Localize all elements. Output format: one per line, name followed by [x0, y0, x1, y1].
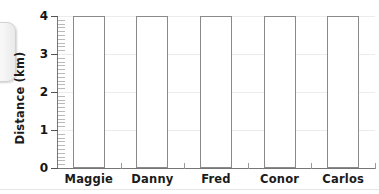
y-tick-minor: [58, 31, 65, 32]
x-tick: [248, 163, 249, 169]
y-tick-minor: [58, 81, 65, 82]
x-tick: [184, 163, 185, 169]
y-tick-major: [51, 168, 58, 169]
x-axis-line: [57, 168, 375, 169]
x-axis-category-label: Danny: [121, 172, 185, 186]
y-tick-minor: [58, 141, 65, 142]
y-tick-minor: [58, 145, 65, 146]
y-tick-minor: [58, 122, 65, 123]
x-axis-category-label: Fred: [184, 172, 248, 186]
y-tick-minor: [58, 62, 65, 63]
y-tick-minor: [58, 164, 65, 165]
bar: [264, 16, 296, 168]
y-tick-minor: [58, 88, 65, 89]
bar: [136, 16, 168, 168]
y-tick-minor: [58, 126, 65, 127]
y-tick-minor: [58, 149, 65, 150]
y-tick-minor: [58, 24, 65, 25]
y-axis-tick-label: 4: [33, 10, 48, 22]
x-axis-category-label: Maggie: [57, 172, 121, 186]
y-tick-major: [51, 92, 58, 93]
bar: [73, 16, 105, 168]
y-axis-title-label: Distance (km): [13, 38, 27, 158]
y-tick-minor: [58, 107, 65, 108]
chart-page: Distance (km) 01234 MaggieDannyFredConor…: [0, 0, 379, 194]
y-tick-major: [51, 16, 58, 17]
y-axis-tick-label: 0: [33, 162, 48, 174]
x-axis-category-label: Conor: [248, 172, 312, 186]
y-tick-minor: [58, 20, 65, 21]
y-tick-minor: [58, 65, 65, 66]
x-axis-category-label: Carlos: [311, 172, 375, 186]
y-tick-minor: [58, 96, 65, 97]
y-tick-minor: [58, 46, 65, 47]
y-tick-minor: [58, 160, 65, 161]
y-tick-minor: [58, 111, 65, 112]
y-tick-minor: [58, 138, 65, 139]
y-axis-tick-label: 2: [33, 86, 48, 98]
x-tick: [121, 163, 122, 169]
y-axis-tick-label: 3: [33, 48, 48, 60]
y-tick-major: [51, 54, 58, 55]
bar: [200, 16, 232, 168]
y-axis-tick-label: 1: [33, 124, 48, 136]
y-tick-minor: [58, 134, 65, 135]
y-tick-minor: [58, 35, 65, 36]
y-tick-minor: [58, 69, 65, 70]
y-tick-minor: [58, 77, 65, 78]
x-tick: [375, 163, 376, 169]
y-tick-minor: [58, 115, 65, 116]
y-tick-minor: [58, 157, 65, 158]
y-tick-minor: [58, 73, 65, 74]
x-tick: [311, 163, 312, 169]
bar: [327, 16, 359, 168]
y-tick-minor: [58, 39, 65, 40]
y-tick-minor: [58, 119, 65, 120]
y-tick-minor: [58, 153, 65, 154]
y-tick-minor: [58, 58, 65, 59]
bottom-divider: [0, 189, 379, 190]
y-tick-minor: [58, 43, 65, 44]
y-tick-minor: [58, 84, 65, 85]
y-tick-minor: [58, 100, 65, 101]
y-tick-minor: [58, 50, 65, 51]
y-tick-minor: [58, 103, 65, 104]
y-axis-title: Distance (km): [13, 38, 29, 158]
y-tick-minor: [58, 27, 65, 28]
y-tick-major: [51, 130, 58, 131]
